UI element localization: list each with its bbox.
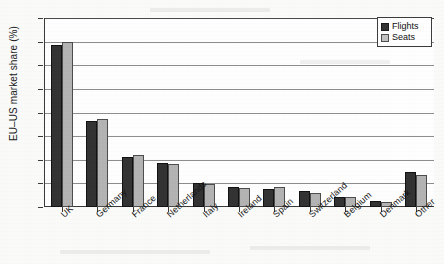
bar-flights	[228, 187, 239, 207]
bar-seats	[62, 42, 73, 207]
scan-ghost-text	[250, 246, 370, 250]
bar-flights	[86, 121, 97, 207]
bar-group	[221, 18, 256, 207]
bar-seats	[133, 155, 144, 207]
bar-group	[44, 18, 79, 207]
bar-flights	[299, 191, 310, 207]
y-tick-mark	[38, 183, 43, 184]
y-tick-mark	[38, 207, 43, 208]
bar-flights	[157, 163, 168, 207]
legend-label-seats: Seats	[392, 33, 415, 42]
scan-ghost-text	[150, 8, 270, 12]
bar-group	[79, 18, 114, 207]
bar-group	[186, 18, 221, 207]
y-tick-mark	[38, 89, 43, 90]
y-tick-mark	[38, 42, 43, 43]
bar-group	[115, 18, 150, 207]
y-tick-mark	[38, 160, 43, 161]
bar-flights	[122, 157, 133, 207]
y-tick-mark	[38, 136, 43, 137]
legend-label-flights: Flights	[392, 22, 419, 31]
y-axis-title: EU–US market share (%)	[8, 0, 19, 179]
bar-flights	[51, 45, 62, 207]
scan-ghost-text	[60, 250, 210, 254]
bar-group	[257, 18, 292, 207]
chart-legend: Flights Seats	[377, 17, 432, 47]
bar-group	[150, 18, 185, 207]
bar-flights	[263, 189, 274, 207]
legend-item-seats: Seats	[381, 32, 428, 43]
bar-seats	[97, 119, 108, 207]
legend-item-flights: Flights	[381, 21, 428, 32]
y-tick-mark	[38, 18, 43, 19]
bar-group	[328, 18, 363, 207]
bar-chart-figure: 0510152025303540 EU–US market share (%) …	[0, 0, 444, 264]
y-tick-mark	[38, 113, 43, 114]
bar-flights	[370, 201, 381, 207]
bars-layer	[44, 18, 434, 207]
legend-swatch-seats	[381, 34, 389, 42]
bar-group	[292, 18, 327, 207]
y-tick-mark	[38, 65, 43, 66]
legend-swatch-flights	[381, 23, 389, 31]
